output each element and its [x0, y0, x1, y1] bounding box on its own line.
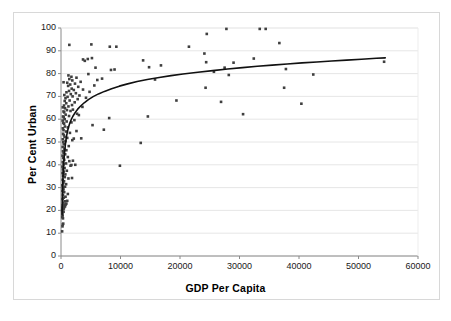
data-point: [278, 42, 281, 45]
data-point: [71, 95, 74, 98]
data-point: [139, 142, 142, 145]
data-point: [147, 115, 150, 118]
data-point: [68, 99, 71, 102]
data-point: [70, 93, 73, 96]
data-point: [70, 164, 73, 167]
data-point: [93, 84, 96, 87]
data-point: [66, 96, 69, 99]
data-point: [65, 202, 68, 205]
data-point: [64, 195, 67, 198]
data-point: [70, 87, 73, 90]
data-point: [113, 68, 116, 71]
data-point: [75, 76, 78, 79]
data-point: [68, 90, 71, 93]
y-tick-label: 50: [32, 136, 56, 146]
data-point: [148, 66, 151, 69]
y-tick-label: 100: [32, 22, 56, 32]
data-point: [66, 169, 69, 172]
data-point: [61, 138, 64, 141]
data-point: [68, 44, 71, 47]
data-point: [71, 79, 74, 82]
data-point: [225, 28, 228, 31]
data-point: [110, 69, 113, 72]
data-point: [119, 164, 122, 167]
data-point: [64, 113, 67, 116]
x-tick-label: 30000: [215, 261, 265, 271]
data-point: [205, 33, 208, 36]
data-point: [94, 66, 97, 69]
data-point: [64, 125, 67, 128]
data-point: [61, 230, 64, 233]
data-point: [62, 81, 65, 84]
data-point: [227, 74, 230, 77]
data-point: [77, 86, 80, 89]
y-tick-label: 60: [32, 113, 56, 123]
data-point: [66, 81, 69, 84]
data-point: [65, 120, 68, 123]
data-point: [69, 110, 72, 113]
data-point: [62, 222, 65, 225]
data-point: [101, 77, 104, 80]
data-point: [67, 74, 70, 77]
data-point: [103, 128, 106, 131]
y-tick-label: 80: [32, 68, 56, 78]
data-point: [383, 60, 386, 63]
y-tick-label: 90: [32, 45, 56, 55]
data-point: [67, 105, 70, 108]
data-point: [76, 98, 79, 101]
chart-container: Per Cent Urban GDP Per Capita 0102030405…: [0, 0, 451, 321]
data-point: [71, 177, 74, 180]
data-point: [65, 102, 68, 105]
data-point: [64, 173, 67, 176]
data-point: [203, 52, 206, 55]
y-tick-label: 70: [32, 90, 56, 100]
y-tick-label: 30: [32, 182, 56, 192]
data-point: [69, 83, 72, 86]
data-point: [64, 185, 67, 188]
data-point: [79, 81, 82, 84]
data-point: [73, 101, 76, 104]
data-point: [188, 45, 191, 48]
data-point: [75, 130, 78, 133]
data-point: [67, 193, 70, 196]
data-point: [82, 58, 85, 61]
data-point: [62, 110, 65, 113]
data-point: [72, 108, 75, 111]
data-point: [264, 28, 267, 31]
data-point: [87, 73, 90, 76]
data-point: [73, 119, 76, 122]
data-point: [63, 94, 66, 97]
data-point: [85, 96, 88, 99]
data-point: [312, 73, 315, 76]
data-point: [74, 164, 77, 167]
data-point: [91, 57, 94, 60]
data-point: [86, 58, 89, 61]
data-point: [62, 141, 65, 144]
data-point: [67, 177, 70, 180]
data-point: [108, 117, 111, 120]
data-point: [300, 102, 303, 105]
x-tick-label: 50000: [334, 261, 384, 271]
data-point: [62, 122, 65, 125]
x-axis-title: GDP Per Capita: [0, 282, 451, 294]
data-point: [175, 99, 178, 102]
data-point: [108, 45, 111, 48]
data-point: [160, 64, 163, 67]
data-point: [67, 156, 70, 159]
x-tick-label: 40000: [274, 261, 324, 271]
data-point: [80, 137, 83, 140]
data-point: [70, 75, 73, 78]
data-point: [72, 159, 75, 162]
data-point: [64, 107, 67, 110]
data-point: [63, 104, 66, 107]
y-tick-label: 10: [32, 227, 56, 237]
y-tick-label: 40: [32, 159, 56, 169]
data-point: [90, 43, 93, 46]
data-point: [142, 59, 145, 62]
data-point: [78, 94, 81, 97]
x-tick-label: 10000: [96, 261, 146, 271]
data-point: [65, 183, 68, 186]
data-point: [220, 101, 223, 104]
x-tick-label: 60000: [393, 261, 443, 271]
data-point: [71, 104, 74, 107]
